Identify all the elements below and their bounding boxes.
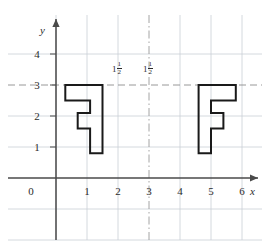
distance-left-denominator: 2 [117, 69, 122, 76]
coordinate-grid-figure: y x 4 3 2 1 0 1 2 3 4 5 6 112 112 [0, 0, 269, 248]
axis-tick-marks [50, 54, 56, 147]
x-tick-label-4: 4 [173, 186, 187, 197]
distance-right-fraction: 12 [148, 61, 153, 76]
x-tick-label-5: 5 [204, 186, 218, 197]
x-tick-label-3: 3 [142, 186, 156, 197]
distance-left-fraction: 12 [117, 61, 122, 76]
horizontal-gridlines [8, 54, 262, 240]
y-axis-arrowhead [52, 19, 59, 27]
x-axis-label: x [250, 186, 255, 197]
y-tick-label-1: 1 [30, 142, 44, 153]
x-tick-label-0: 0 [24, 186, 38, 197]
x-tick-label-6: 6 [235, 186, 249, 197]
distance-label-right: 112 [143, 61, 153, 76]
distance-right-whole: 1 [143, 64, 148, 74]
distance-right-denominator: 2 [148, 69, 153, 76]
x-axis-arrowhead [250, 174, 258, 181]
reflected-f-shape [65, 85, 102, 153]
distance-left-whole: 1 [112, 64, 117, 74]
distance-label-left: 112 [112, 61, 122, 76]
y-tick-label-2: 2 [30, 111, 44, 122]
y-axis-label: y [40, 25, 45, 36]
x-tick-label-1: 1 [80, 186, 94, 197]
original-f-shape [199, 85, 236, 153]
plot-canvas [0, 0, 269, 248]
x-tick-label-2: 2 [111, 186, 125, 197]
y-tick-label-3: 3 [30, 80, 44, 91]
y-tick-label-4: 4 [30, 49, 44, 60]
